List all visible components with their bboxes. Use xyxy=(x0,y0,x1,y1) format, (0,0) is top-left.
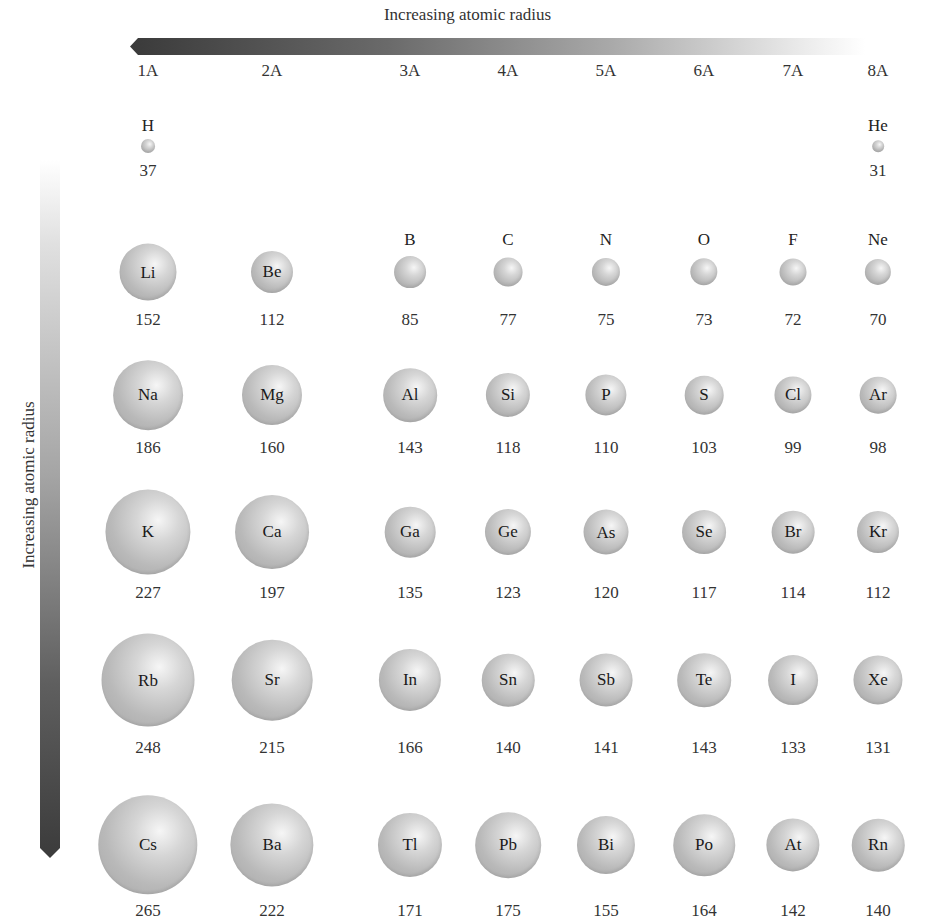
group-label-5a: 5A xyxy=(596,61,617,81)
atom-sphere-ar: Ar xyxy=(860,377,897,414)
element-symbol: Sr xyxy=(264,670,279,690)
radius-value: 112 xyxy=(260,310,285,330)
element-symbol: Al xyxy=(402,385,419,405)
group-label-2a: 2A xyxy=(262,61,283,81)
radius-value: 70 xyxy=(870,310,887,330)
element-symbol: K xyxy=(142,522,154,542)
element-symbol: Cs xyxy=(139,835,157,855)
element-symbol: N xyxy=(600,230,612,250)
atom-sphere-xe: Xe xyxy=(853,655,902,704)
element-symbol: Sn xyxy=(499,670,517,690)
element-symbol: C xyxy=(502,230,513,250)
atom-sphere-kr: Kr xyxy=(857,511,899,553)
radius-value: 171 xyxy=(397,901,423,921)
atom-sphere-ne xyxy=(865,259,891,285)
radius-value: 120 xyxy=(593,583,619,603)
atom-sphere-ca: Ca xyxy=(235,495,309,569)
radius-value: 37 xyxy=(140,161,157,181)
element-symbol: Ar xyxy=(869,385,887,405)
atom-sphere-rn: Rn xyxy=(852,819,905,872)
radius-value: 117 xyxy=(692,583,717,603)
radius-value: 114 xyxy=(781,583,806,603)
radius-value: 222 xyxy=(259,901,285,921)
element-symbol: Xe xyxy=(868,670,888,690)
radius-value: 160 xyxy=(259,438,285,458)
element-symbol: Ca xyxy=(263,522,282,542)
element-symbol: F xyxy=(788,230,797,250)
vertical-trend-title: Increasing atomic radius xyxy=(19,401,39,568)
atom-sphere-f xyxy=(780,259,807,286)
element-symbol: Po xyxy=(695,835,713,855)
atom-sphere-p: P xyxy=(585,374,626,415)
group-label-4a: 4A xyxy=(498,61,519,81)
radius-value: 73 xyxy=(696,310,713,330)
atom-sphere-si: Si xyxy=(486,373,530,417)
radius-value: 155 xyxy=(593,901,619,921)
atom-sphere-ba: Ba xyxy=(230,803,313,886)
group-label-8a: 8A xyxy=(868,61,889,81)
atom-sphere-cl: Cl xyxy=(774,376,811,413)
element-symbol: As xyxy=(597,522,616,542)
group-label-7a: 7A xyxy=(783,61,804,81)
atom-sphere-sr: Sr xyxy=(232,640,313,721)
element-symbol: I xyxy=(790,670,796,690)
group-label-6a: 6A xyxy=(694,61,715,81)
atom-sphere-rb: Rb xyxy=(102,634,195,727)
horizontal-trend-title: Increasing atomic radius xyxy=(0,5,935,25)
radius-value: 131 xyxy=(865,738,891,758)
radius-value: 265 xyxy=(135,901,161,921)
atom-sphere-al: Al xyxy=(383,368,437,422)
atom-sphere-tl: Tl xyxy=(378,813,442,877)
atom-sphere-i: I xyxy=(768,655,818,705)
group-label-3a: 3A xyxy=(400,61,421,81)
radius-value: 112 xyxy=(866,583,891,603)
atom-sphere-n xyxy=(592,258,620,286)
radius-value: 77 xyxy=(500,310,517,330)
radius-value: 227 xyxy=(135,583,161,603)
atom-sphere-mg: Mg xyxy=(242,365,302,425)
radius-value: 141 xyxy=(593,738,619,758)
element-symbol: S xyxy=(699,385,708,405)
atom-sphere-b xyxy=(394,256,426,288)
radius-value: 85 xyxy=(402,310,419,330)
radius-value: 31 xyxy=(870,161,887,181)
radius-value: 143 xyxy=(397,438,423,458)
radius-value: 248 xyxy=(135,738,161,758)
atom-sphere-sb: Sb xyxy=(580,654,633,707)
element-symbol: Si xyxy=(501,385,515,405)
element-symbol: Na xyxy=(138,385,158,405)
radius-value: 110 xyxy=(594,438,619,458)
element-symbol: Kr xyxy=(869,522,887,542)
element-symbol: H xyxy=(142,116,154,136)
atom-sphere-te: Te xyxy=(677,653,731,707)
radius-value: 72 xyxy=(785,310,802,330)
radius-value: 164 xyxy=(691,901,717,921)
radius-value: 99 xyxy=(785,438,802,458)
element-symbol: Li xyxy=(140,262,155,282)
atom-sphere-bi: Bi xyxy=(577,816,635,874)
radius-value: 98 xyxy=(870,438,887,458)
element-symbol: In xyxy=(403,670,417,690)
atom-sphere-ge: Ge xyxy=(485,509,531,555)
element-symbol: Te xyxy=(696,670,713,690)
element-symbol: Tl xyxy=(402,835,417,855)
atom-sphere-s: S xyxy=(685,376,724,415)
radius-value: 123 xyxy=(495,583,521,603)
element-symbol: P xyxy=(601,385,610,405)
radius-value: 166 xyxy=(397,738,423,758)
atom-sphere-h xyxy=(141,139,155,153)
radius-value: 143 xyxy=(691,738,717,758)
horizontal-trend-arrow-icon xyxy=(130,38,865,55)
element-symbol: O xyxy=(698,230,710,250)
atom-sphere-pb: Pb xyxy=(475,812,541,878)
atom-sphere-ga: Ga xyxy=(385,507,436,558)
atom-sphere-in: In xyxy=(379,649,441,711)
radius-value: 186 xyxy=(135,438,161,458)
element-symbol: Rn xyxy=(868,835,888,855)
element-symbol: Bi xyxy=(598,835,614,855)
atom-sphere-k: K xyxy=(105,489,190,574)
radius-value: 175 xyxy=(495,901,521,921)
radius-value: 215 xyxy=(259,738,285,758)
radius-value: 103 xyxy=(691,438,717,458)
element-symbol: Mg xyxy=(260,385,284,405)
